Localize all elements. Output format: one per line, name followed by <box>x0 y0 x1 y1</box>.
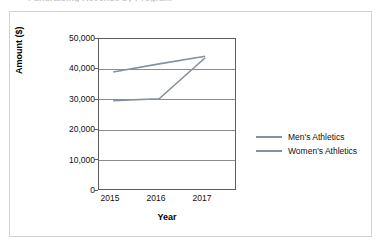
x-tick-label-2016: 2016 <box>136 194 176 203</box>
legend-swatch-icon-mens <box>256 136 282 138</box>
legend-item-womens-athletics[interactable]: Women's Athletics <box>256 145 357 157</box>
y-tick-label-50000: 50,000 <box>35 34 95 43</box>
series-plot-lines <box>98 38 236 190</box>
y-tick-label-20000: 20,000 <box>35 125 95 134</box>
x-tick-label-2017: 2017 <box>182 194 222 203</box>
legend-swatch-icon-womens <box>256 150 282 152</box>
x-tick-label-2015: 2015 <box>90 194 130 203</box>
x-axis-title: Year <box>98 212 236 222</box>
y-tick-label-30000: 30,000 <box>35 95 95 104</box>
y-tick-label-0: 0 <box>35 186 95 195</box>
legend-item-mens-athletics[interactable]: Men's Athletics <box>256 131 357 143</box>
chart-legend: Men's Athletics Women's Athletics <box>256 131 357 159</box>
y-tick-label-40000: 40,000 <box>35 64 95 73</box>
chart-canvas: Amount ($) 0 10,000 20,000 30,000 40,000… <box>0 0 382 248</box>
legend-label-mens: Men's Athletics <box>288 133 344 142</box>
y-axis-title: Amount ($) <box>14 27 24 75</box>
y-tick-mark-0 <box>94 190 98 191</box>
legend-label-womens: Women's Athletics <box>288 147 357 156</box>
y-tick-label-10000: 10,000 <box>35 156 95 165</box>
